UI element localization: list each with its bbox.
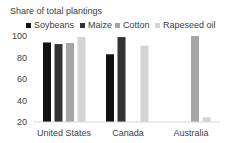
bar-rapeseed-oil-united-states — [78, 37, 86, 122]
bar-maize-united-states — [55, 44, 63, 122]
bar-rapeseed-oil-australia — [203, 117, 211, 122]
bar-maize-canada — [118, 37, 126, 122]
chart-plot: 100 80 60 40 20 United States Canada Aus… — [0, 0, 231, 143]
y-tick-label: 100 — [12, 31, 27, 41]
x-category-label: Australia — [173, 128, 208, 138]
x-category-label: United States — [37, 128, 92, 138]
x-axis: United States Canada Australia — [37, 128, 209, 138]
y-tick-label: 20 — [17, 117, 27, 127]
bar-rapeseed-oil-canada — [141, 46, 149, 122]
y-axis: 100 80 60 40 20 — [12, 31, 27, 127]
bar-cotton-united-states — [66, 43, 74, 122]
y-tick-label: 60 — [17, 74, 27, 84]
y-tick-label: 40 — [17, 96, 27, 106]
bar-soybeans-united-states — [43, 42, 51, 122]
x-category-label: Canada — [112, 128, 144, 138]
y-tick-label: 80 — [17, 53, 27, 63]
bar-soybeans-canada — [106, 54, 114, 122]
bars — [43, 36, 211, 122]
bar-cotton-australia — [191, 36, 199, 122]
